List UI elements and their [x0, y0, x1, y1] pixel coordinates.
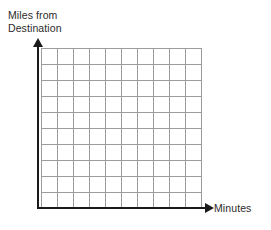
grid-line-horizontal [41, 160, 201, 161]
grid-line-horizontal [41, 64, 201, 65]
grid-line-horizontal [41, 192, 201, 193]
plot-grid [41, 48, 201, 208]
grid-line-horizontal [41, 96, 201, 97]
x-axis-label: Minutes [214, 202, 251, 215]
grid-line-horizontal [41, 144, 201, 145]
grid-line-horizontal [41, 176, 201, 177]
y-axis-label: Miles fromDestination [8, 9, 62, 34]
grid-line-horizontal [41, 112, 201, 113]
arrow-right-icon [205, 203, 214, 213]
grid-line-vertical [201, 48, 202, 208]
chart-canvas: Miles fromDestination Minutes [0, 0, 271, 230]
arrow-up-icon [33, 38, 43, 47]
y-axis-label-line-2: Destination [8, 22, 62, 34]
y-axis-label-line-1: Miles from [8, 9, 57, 21]
grid-line-horizontal [41, 128, 201, 129]
y-axis-line [37, 46, 39, 209]
grid-line-horizontal [41, 48, 201, 49]
grid-line-horizontal [41, 80, 201, 81]
x-axis-line [37, 207, 211, 209]
